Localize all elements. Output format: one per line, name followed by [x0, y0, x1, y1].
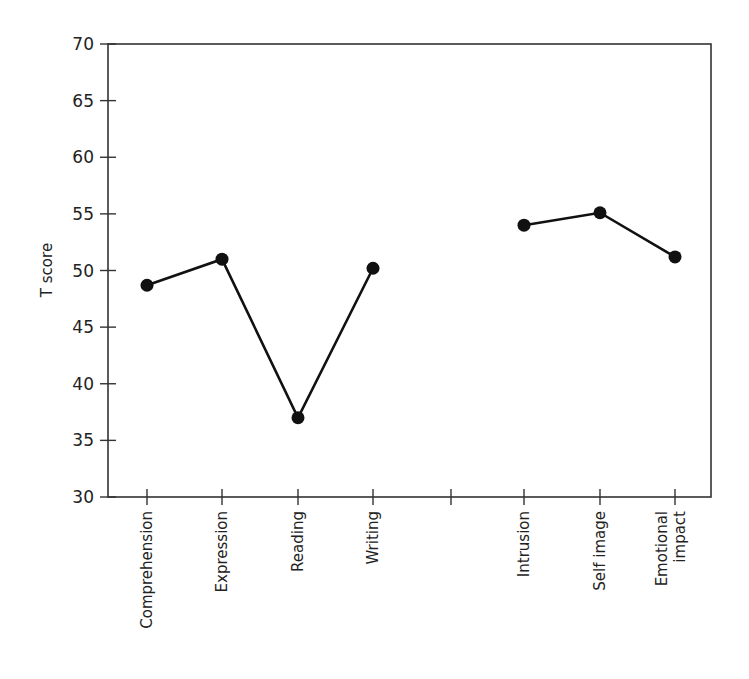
x-tick-label: Comprehension [138, 511, 156, 629]
x-tick-label: Emotional [653, 511, 671, 586]
y-axis-title: T score [38, 243, 56, 298]
y-tick-label: 30 [72, 487, 94, 507]
series-line [147, 259, 373, 418]
x-axis: ComprehensionExpressionReadingWritingInt… [138, 489, 689, 629]
y-tick-label: 55 [72, 204, 94, 224]
x-tick-label: Expression [213, 511, 231, 592]
data-point-marker [367, 262, 380, 275]
line-chart: 303540455055606570 ComprehensionExpressi… [0, 0, 749, 679]
data-point-marker [292, 411, 305, 424]
y-tick-label: 40 [72, 374, 94, 394]
y-tick-label: 60 [72, 147, 94, 167]
data-point-marker [518, 219, 531, 232]
plot-frame [108, 44, 711, 497]
y-tick-label: 65 [72, 91, 94, 111]
y-tick-label: 50 [72, 261, 94, 281]
x-tick-label: Reading [289, 511, 307, 572]
x-tick-label: Writing [364, 511, 382, 565]
y-tick-label: 70 [72, 34, 94, 54]
y-axis: 303540455055606570 [72, 34, 116, 507]
data-point-marker [216, 253, 229, 266]
data-series [141, 206, 682, 424]
y-tick-label: 35 [72, 430, 94, 450]
data-point-marker [594, 206, 607, 219]
x-tick-label: Intrusion [515, 511, 533, 577]
plot-border [108, 44, 711, 497]
data-point-marker [141, 279, 154, 292]
data-point-marker [669, 250, 682, 263]
y-tick-label: 45 [72, 317, 94, 337]
x-tick-label: impact [671, 511, 689, 563]
x-tick-label: Self image [591, 511, 609, 591]
series-line [524, 213, 675, 257]
